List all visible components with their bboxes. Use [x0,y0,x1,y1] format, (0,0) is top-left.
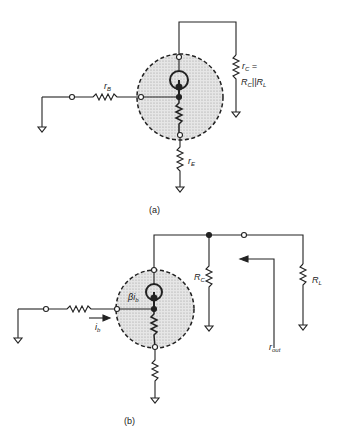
circuit-diagram: rB rE rC = RC||RL (a) βib ib RC RL rout … [0,0,337,442]
re-resistor [152,347,158,398]
ground-icon [176,187,184,192]
ground-icon [299,325,307,330]
rc-parallel-label: RC||RL [241,77,266,88]
re-label: rE [188,156,196,167]
rc-resistor [206,235,212,326]
rb-resistor [47,306,117,312]
ground-icon [232,112,240,117]
figure-b [14,233,307,404]
caption-b: (b) [124,416,135,426]
base-node [115,307,120,312]
emitter-node [178,133,183,138]
ground-icon [205,326,213,331]
rc-label: rC = [242,61,257,72]
emitter-node [153,345,158,350]
rout-label: rout [269,342,281,353]
ground-icon [14,338,22,343]
rc-label: RC [194,272,206,283]
base-node [139,95,144,100]
ib-label: ib [95,322,101,333]
output-terminal [242,233,247,238]
input-terminal [44,307,49,312]
input-terminal [70,95,75,100]
ground-icon [151,398,159,403]
re-resistor [177,135,183,187]
collector-node [177,55,182,60]
rc-resistor [233,55,239,112]
rb-label: rB [104,81,111,92]
rl-resistor [300,264,306,325]
figure-a [38,22,240,192]
caption-a: (a) [149,205,160,215]
rout-arrow [244,259,274,348]
ground-icon [38,127,46,132]
rl-label: RL [312,275,322,286]
collector-node [152,268,157,273]
rb-resistor [74,94,141,100]
